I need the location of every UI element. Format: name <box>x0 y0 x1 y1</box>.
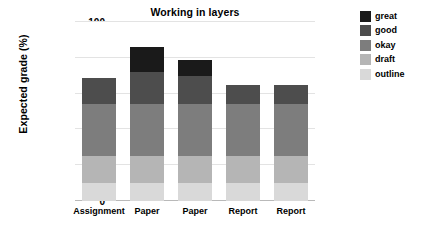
legend: greatgoodokaydraftoutline <box>360 9 424 82</box>
chart-figure: Working in layers Expected grade (%) 020… <box>0 0 427 234</box>
bar-segment-good[interactable] <box>226 85 260 105</box>
legend-swatch-icon-okay <box>360 40 371 51</box>
bar-segment-outline[interactable] <box>226 183 260 201</box>
chart-title: Working in layers <box>75 6 315 18</box>
legend-label: great <box>375 12 397 21</box>
bar-segment-good[interactable] <box>274 85 308 105</box>
bar-segment-draft[interactable] <box>130 156 164 183</box>
legend-item-okay[interactable]: okay <box>360 38 424 53</box>
bar-segment-good[interactable] <box>82 78 116 105</box>
bar-segment-good[interactable] <box>130 72 164 104</box>
legend-swatch-icon-draft <box>360 54 371 65</box>
bar-segment-okay[interactable] <box>82 104 116 156</box>
x-axis-ticks: AssignmentPaperPaperReportReport <box>75 206 315 222</box>
legend-item-good[interactable]: good <box>360 24 424 39</box>
bar-segment-draft[interactable] <box>178 156 212 183</box>
bar-group[interactable] <box>82 22 116 201</box>
legend-label: outline <box>375 70 405 79</box>
bar-segment-outline[interactable] <box>130 183 164 201</box>
x-tick-label: Report <box>229 206 258 216</box>
legend-swatch-icon-outline <box>360 69 371 80</box>
bar-segment-great[interactable] <box>178 60 212 76</box>
bar-segment-okay[interactable] <box>226 104 260 156</box>
bar-group[interactable] <box>274 22 308 201</box>
x-tick-label: Report <box>277 206 306 216</box>
bar-group[interactable] <box>130 22 164 201</box>
plot-area <box>75 22 315 201</box>
legend-item-great[interactable]: great <box>360 9 424 24</box>
x-tick-label: Paper <box>182 206 207 216</box>
bar-segment-okay[interactable] <box>274 104 308 156</box>
legend-label: good <box>375 26 397 35</box>
legend-swatch-icon-good <box>360 25 371 36</box>
y-axis-label-wrap: Expected grade (%) <box>0 22 40 201</box>
bar-segment-okay[interactable] <box>130 104 164 156</box>
legend-label: draft <box>375 55 395 64</box>
bar-segment-great[interactable] <box>130 47 164 72</box>
y-axis-label: Expected grade (%) <box>17 9 29 159</box>
legend-item-outline[interactable]: outline <box>360 67 424 82</box>
bar-segment-okay[interactable] <box>178 104 212 156</box>
bar-segment-outline[interactable] <box>178 183 212 201</box>
bar-segment-outline[interactable] <box>82 183 116 201</box>
bar-segment-draft[interactable] <box>226 156 260 183</box>
bar-group[interactable] <box>178 22 212 201</box>
bar-segment-good[interactable] <box>178 76 212 105</box>
bar-segment-outline[interactable] <box>274 183 308 201</box>
bar-segment-draft[interactable] <box>82 156 116 183</box>
legend-swatch-icon-great <box>360 11 371 22</box>
bar-group[interactable] <box>226 22 260 201</box>
legend-item-draft[interactable]: draft <box>360 53 424 68</box>
x-tick-label: Paper <box>134 206 159 216</box>
bar-series-container <box>75 22 315 201</box>
legend-label: okay <box>375 41 396 50</box>
bar-segment-draft[interactable] <box>274 156 308 183</box>
x-tick-label: Assignment <box>73 206 125 216</box>
